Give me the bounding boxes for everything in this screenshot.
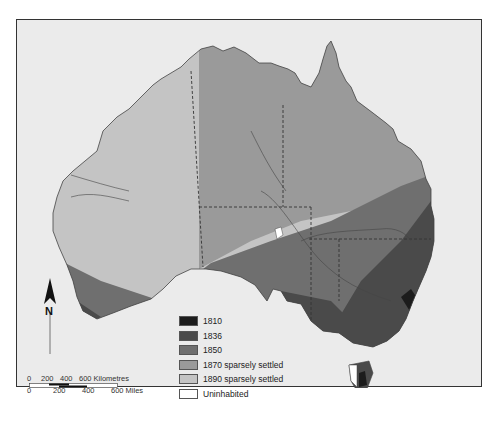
legend-item: 1850 [179,343,283,358]
legend-item: 1810 [179,314,283,329]
legend-label: 1836 [203,331,222,341]
scale-km-0: 0 [27,374,31,383]
legend-swatch-1890 [179,374,198,384]
legend-item: 1836 [179,329,283,344]
scale-mi-0: 0 [27,386,31,395]
legend-item: 1870 sparsely settled [179,358,283,373]
legend-swatch-1836 [179,331,198,341]
scale-mi-200: 200 [53,386,66,395]
map-frame: N 1810 1836 1850 1870 sparsely settled 1… [16,19,482,387]
legend-swatch-1870 [179,360,198,370]
legend-swatch-1810 [179,316,198,326]
legend-swatch-uninhabited [179,389,198,399]
legend-swatch-1850 [179,345,198,355]
legend-label: 1850 [203,345,222,355]
scale-km-600: 600 Kilometres [79,374,129,383]
legend-label: Uninhabited [203,389,248,399]
legend-item: Uninhabited [179,387,283,402]
legend-label: 1890 sparsely settled [203,374,283,384]
scale-km-200: 200 [41,374,54,383]
scale-mi-400: 400 [82,386,95,395]
legend: 1810 1836 1850 1870 sparsely settled 189… [179,314,283,401]
legend-label: 1810 [203,316,222,326]
tasmania [349,361,373,388]
scale-bar: 0 200 400 600 Kilometres 0 200 400 600 M… [27,376,167,396]
north-label: N [45,305,53,317]
legend-item: 1890 sparsely settled [179,372,283,387]
scale-km-400: 400 [60,374,73,383]
legend-label: 1870 sparsely settled [203,360,283,370]
scale-mi-600: 600 Miles [111,386,143,395]
